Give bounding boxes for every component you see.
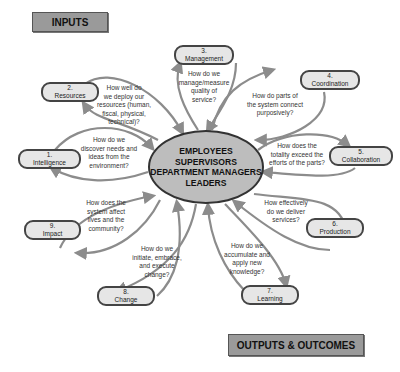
node-number: 9. [50,222,55,230]
question-resources: How well do we deploy our resources (hum… [96,84,152,127]
hub-line-employees: EMPLOYEES [179,146,232,157]
question-production: How effectively do we deliver services? [258,199,314,225]
node-collaboration: 5. Collaboration [329,146,393,166]
question-learning: How do we accumulate and apply new knowl… [220,242,274,276]
node-label: Coordination [312,80,349,88]
node-number: 1. [47,151,52,159]
node-number: 6. [332,220,337,228]
node-number: 3. [201,47,206,55]
inputs-label: INPUTS [52,17,89,28]
question-change: How do we initiate, embrace, and execute… [127,245,187,279]
node-label: Impact [43,230,63,238]
question-collaboration: How does the totality exceed the efforts… [260,142,334,168]
central-stakeholders-ellipse: EMPLOYEES SUPERVISORS DEPARTMENT MANAGER… [148,130,264,204]
hub-line-department-managers: DEPARTMENT MANAGERS [150,167,262,178]
node-production: 6. Production [306,218,364,238]
node-resources: 2. Resources [41,82,99,102]
node-number: 2. [67,84,72,92]
node-coordination: 4. Coordination [300,70,360,90]
node-label: Collaboration [342,156,380,164]
node-number: 7. [267,287,272,295]
node-learning: 7. Learning [241,285,299,305]
node-impact: 9. Impact [24,220,81,240]
question-intelligence: How do we discover needs and ideas from … [74,136,144,170]
node-label: Learning [257,295,282,303]
node-label: Change [115,296,138,304]
question-management: How do we manage/measure quality of serv… [176,70,232,104]
outputs-label: OUTPUTS & OUTCOMES [237,340,355,351]
inputs-banner: INPUTS [32,12,108,32]
node-intelligence: 1. Intelligence [18,149,81,169]
node-number: 4. [327,72,332,80]
outputs-banner: OUTPUTS & OUTCOMES [228,334,364,356]
hub-line-leaders: LEADERS [185,178,226,189]
hub-line-supervisors: SUPERVISORS [175,157,237,168]
node-number: 5. [358,148,363,156]
question-impact: How does the system affect lives and the… [80,199,132,233]
node-number: 8. [123,288,128,296]
node-change: 8. Change [97,286,155,306]
question-coordination: How do parts of the system connect purpo… [240,92,310,118]
node-label: Resources [54,92,85,100]
node-label: Management [185,55,223,63]
node-label: Production [319,228,350,236]
node-management: 3. Management [174,45,234,65]
node-label: Intelligence [33,159,66,167]
